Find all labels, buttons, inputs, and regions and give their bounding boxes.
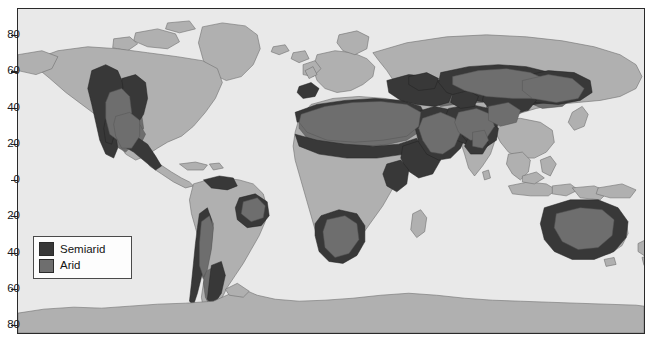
y-tick-label: 80	[7, 29, 20, 41]
y-tick-label: 20	[7, 211, 20, 223]
legend-label-semiarid: Semiarid	[60, 244, 105, 256]
y-tick-label: 0	[14, 174, 20, 186]
map-plot-area	[17, 8, 645, 334]
y-tick-label: 60	[7, 283, 20, 295]
world-map	[18, 9, 644, 333]
legend-item-semiarid: Semiarid	[39, 241, 126, 257]
figure-canvas: 80 60 40 20 0 20 40 60 80 Semiarid Arid	[0, 0, 651, 343]
y-tick-label: 80	[7, 319, 20, 331]
y-tick-label: 60	[7, 66, 20, 78]
y-tick-label: 40	[7, 102, 20, 114]
y-tick-label: 40	[7, 247, 20, 259]
legend-label-arid: Arid	[60, 260, 80, 272]
legend-swatch-semiarid	[39, 242, 54, 256]
map-legend: Semiarid Arid	[33, 236, 132, 279]
antarctica-layer	[18, 283, 644, 333]
legend-item-arid: Arid	[39, 258, 126, 274]
y-tick-label: 20	[7, 138, 20, 150]
legend-swatch-arid	[39, 259, 54, 273]
